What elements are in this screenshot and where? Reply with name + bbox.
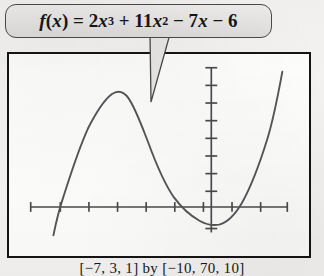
textbook-figure: f(x)=2x3+11x2−7x−6 [0,0,324,276]
formula-minus-1: − [173,10,184,32]
formula-paren-close: ) [62,10,69,32]
formula-minus-2: − [212,10,223,32]
formula-coef-1: 2 [89,10,99,32]
formula-coef-3: 7 [189,10,199,32]
formula-coef-2: 11 [134,10,152,32]
formula-term3-var: x [198,10,208,32]
viewing-window-caption: [−7, 3, 1] by [−10, 70, 10] [0,260,324,276]
formula-equals: = [73,10,84,32]
formula-plus: + [119,10,130,32]
formula-constant: 6 [228,10,238,32]
formula-term1-var: x [98,10,108,32]
callout-tail [140,34,180,106]
function-formula-callout: f(x)=2x3+11x2−7x−6 [5,4,272,38]
function-formula-text: f(x)=2x3+11x2−7x−6 [6,5,271,37]
formula-var-1: x [52,10,62,32]
formula-term2-var: x [153,10,163,32]
